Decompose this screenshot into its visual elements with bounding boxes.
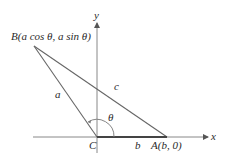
side-c-label: c [114,80,119,92]
vertex-a-label: A(b, 0) [150,139,182,152]
x-axis-label: x [210,130,216,142]
side-b-label: b [135,139,141,151]
vertex-b-label: B(a cos θ, a sin θ) [11,30,91,43]
angle-theta-label: θ [108,111,114,123]
side-c [34,46,167,137]
vertex-c-label: C [89,139,97,151]
y-axis-label: y [93,9,99,21]
triangle-diagram: y x B(a cos θ, a sin θ) c a θ C b A(b, 0… [0,0,231,159]
side-a-label: a [55,88,61,100]
angle-arrow-icon [88,120,91,124]
side-a [34,46,97,137]
